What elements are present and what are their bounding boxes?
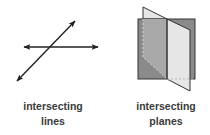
intersecting-lines-figure [17,21,98,81]
intersecting-planes-label: intersecting planes [121,99,210,129]
label-line-1: intersecting [8,99,98,114]
intersecting-planes-figure [138,7,195,91]
label-line-2: lines [8,114,98,129]
front-plane-right [167,19,190,91]
front-plane-top-left [143,7,167,19]
diagonal-line [17,21,75,81]
label-line-2: planes [121,114,210,129]
label-line-1: intersecting [121,99,210,114]
intersecting-lines-label: intersecting lines [8,99,98,129]
